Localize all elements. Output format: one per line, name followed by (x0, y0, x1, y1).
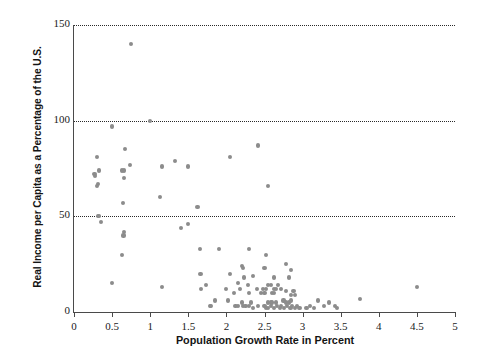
data-point (173, 159, 177, 163)
data-point (256, 304, 260, 308)
data-point (122, 168, 126, 172)
x-tick-mark-4.5 (417, 312, 418, 317)
data-point (179, 226, 183, 230)
data-point (316, 298, 320, 302)
data-point (312, 306, 316, 310)
data-point (236, 281, 240, 285)
data-point (262, 266, 266, 270)
x-tick-mark-5 (455, 312, 456, 317)
data-point (217, 247, 221, 251)
data-point (120, 253, 124, 257)
data-point (284, 289, 288, 293)
data-point (242, 275, 246, 279)
data-point (246, 283, 250, 287)
data-point (213, 298, 217, 302)
data-point (198, 247, 202, 251)
data-point (228, 272, 232, 276)
data-point (121, 201, 125, 205)
data-point (293, 293, 297, 297)
data-point (327, 300, 331, 304)
data-point (97, 214, 101, 218)
data-point (160, 285, 164, 289)
x-tick-mark-1 (150, 312, 151, 317)
data-point (415, 285, 419, 289)
x-tick-mark-4 (379, 312, 380, 317)
data-point (272, 291, 276, 295)
y-tick-label-50: 50 (59, 208, 70, 220)
x-tick-label-4.5: 4.5 (410, 320, 424, 332)
x-tick-label-4: 4 (376, 320, 382, 332)
x-tick-label-3.5: 3.5 (334, 320, 348, 332)
data-point (232, 291, 236, 295)
y-axis-tick-labels: 050100150 (40, 25, 70, 313)
data-point (122, 176, 126, 180)
y-tick-label-0: 0 (65, 304, 71, 316)
y-axis-line (73, 25, 74, 313)
data-point (123, 147, 127, 151)
x-tick-label-1: 1 (147, 320, 153, 332)
data-point (322, 304, 326, 308)
data-point (289, 268, 293, 272)
data-point (224, 287, 228, 291)
data-point (238, 287, 242, 291)
x-tick-mark-3 (303, 312, 304, 317)
data-point (128, 163, 132, 167)
data-point (199, 287, 203, 291)
data-point (93, 174, 97, 178)
data-point (287, 275, 291, 279)
data-point (256, 143, 260, 147)
y-tick-label-150: 150 (54, 17, 71, 29)
data-point (272, 275, 276, 279)
data-point (186, 164, 190, 168)
data-point (228, 155, 232, 159)
x-tick-label-1.5: 1.5 (181, 320, 195, 332)
x-tick-label-0.5: 0.5 (105, 320, 119, 332)
gridline-y-50 (74, 216, 455, 217)
data-point (247, 247, 251, 251)
gridline-y-100 (74, 121, 455, 122)
x-tick-mark-0.5 (112, 312, 113, 317)
x-tick-label-3: 3 (300, 320, 306, 332)
x-axis-title: Population Growth Rate in Percent (74, 334, 456, 346)
plot-area: 00.511.522.533.544.55 (74, 25, 455, 312)
data-point (284, 262, 288, 266)
data-point (262, 291, 266, 295)
data-point (95, 155, 99, 159)
data-point (195, 205, 199, 209)
data-point (335, 306, 339, 310)
data-point (160, 164, 164, 168)
data-point (279, 287, 283, 291)
data-point (251, 274, 255, 278)
data-point (121, 233, 125, 237)
x-tick-mark-2 (226, 312, 227, 317)
x-tick-mark-3.5 (341, 312, 342, 317)
data-point (148, 119, 152, 123)
data-point (226, 298, 230, 302)
data-point (266, 184, 270, 188)
data-point (297, 306, 301, 310)
x-tick-mark-0 (74, 312, 75, 317)
x-tick-mark-1.5 (188, 312, 189, 317)
data-point (251, 306, 255, 310)
data-point (158, 195, 162, 199)
data-point (247, 291, 251, 295)
data-point (204, 283, 208, 287)
data-point (110, 124, 114, 128)
data-point (264, 253, 268, 257)
data-point (209, 304, 213, 308)
data-point (241, 266, 245, 270)
data-point (129, 42, 133, 46)
x-tick-mark-2.5 (265, 312, 266, 317)
data-point (186, 222, 190, 226)
x-tick-label-2: 2 (224, 320, 230, 332)
data-point (95, 184, 99, 188)
scatter-plot-figure: Real Income per Capita as a Percentage o… (0, 0, 484, 359)
data-point (236, 304, 240, 308)
data-point (255, 287, 259, 291)
gridline-y-150 (74, 25, 455, 26)
x-tick-label-2.5: 2.5 (258, 320, 272, 332)
data-point (99, 220, 103, 224)
data-point (97, 168, 101, 172)
x-tick-label-0: 0 (71, 320, 77, 332)
x-tick-label-5: 5 (452, 320, 458, 332)
